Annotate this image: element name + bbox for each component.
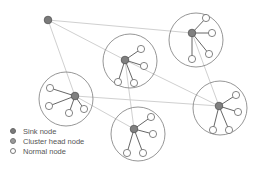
cluster-head-node [130, 125, 138, 133]
normal-node [140, 62, 147, 69]
cluster-head-node [188, 29, 196, 37]
legend: Sink node Cluster head node Normal node [10, 126, 84, 156]
normal-node-icon [10, 148, 16, 154]
normal-node [232, 91, 239, 98]
legend-item-normal: Normal node [10, 146, 84, 156]
cluster-c1 [169, 13, 223, 67]
normal-node [202, 14, 209, 21]
legend-item-head: Cluster head node [10, 136, 84, 146]
cluster-head-node-icon [10, 138, 16, 144]
legend-label-sink: Sink node [23, 127, 56, 136]
cluster-c3 [39, 72, 93, 126]
normal-node [209, 126, 216, 133]
normal-node [225, 126, 232, 133]
sink-node [44, 16, 52, 24]
normal-node [149, 130, 156, 137]
normal-node [234, 108, 241, 115]
normal-node [139, 149, 146, 156]
normal-node [114, 78, 121, 85]
normal-node [208, 29, 215, 36]
cluster-boundary [103, 34, 157, 88]
normal-node [123, 149, 130, 156]
legend-item-sink: Sink node [10, 126, 84, 136]
normal-node [45, 102, 52, 109]
cluster-head-node [215, 102, 223, 110]
legend-label-normal: Normal node [23, 147, 66, 156]
sink-layer [44, 16, 52, 24]
sink-node-icon [10, 128, 16, 134]
cluster-boundary [169, 13, 223, 67]
normal-node [137, 45, 144, 52]
normal-node [80, 105, 87, 112]
normal-node [205, 50, 212, 57]
cluster-head-node [71, 92, 79, 100]
cluster-c4 [111, 107, 165, 161]
normal-node [46, 84, 53, 91]
link-c3-c5 [75, 96, 219, 106]
normal-node [188, 55, 195, 62]
normal-node [147, 113, 154, 120]
normal-node [65, 109, 72, 116]
cluster-head-node [121, 56, 129, 64]
normal-node [130, 79, 137, 86]
cluster-c5 [193, 81, 247, 135]
cluster-c2 [103, 34, 157, 88]
legend-label-head: Cluster head node [23, 137, 84, 146]
